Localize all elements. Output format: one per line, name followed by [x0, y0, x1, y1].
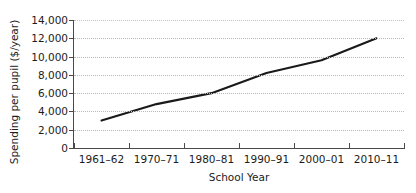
y-axis-tick-mark: [69, 75, 74, 76]
y-axis-tick-label: 4,000: [18, 106, 68, 117]
x-axis-tick-mark: [184, 143, 185, 149]
plot-area: [74, 20, 404, 148]
gridline: [74, 20, 404, 21]
y-axis-tick-label: 2,000: [18, 124, 68, 135]
gridline: [74, 93, 404, 94]
x-axis-tick-mark: [129, 143, 130, 149]
y-axis-tick-mark: [69, 57, 74, 58]
y-axis-tick-label: 8,000: [18, 69, 68, 80]
y-axis-tick-mark: [69, 93, 74, 94]
spending-per-pupil-line: [102, 38, 377, 120]
y-axis-tick-label: 12,000: [18, 33, 68, 44]
x-axis-title: School Year: [74, 171, 404, 184]
y-axis-tick-label: 14,000: [18, 15, 68, 26]
gridline: [74, 75, 404, 76]
y-axis-tick-label-group: 02,0004,0006,0008,00010,00012,00014,000: [18, 0, 68, 193]
gridline: [74, 38, 404, 39]
y-axis-tick-label: 6,000: [18, 88, 68, 99]
gridline: [74, 57, 404, 58]
y-axis-tick-mark: [69, 111, 74, 112]
gridline: [74, 130, 404, 131]
x-axis-tick-label: 2010–11: [342, 153, 412, 166]
x-axis-tick-mark: [349, 143, 350, 149]
x-axis-tick-mark: [74, 143, 75, 149]
x-axis-tick-mark: [239, 143, 240, 149]
x-axis-tick-mark: [294, 143, 295, 149]
y-axis-tick-label: 10,000: [18, 51, 68, 62]
y-axis-tick-mark: [69, 20, 74, 21]
y-axis-tick-mark: [69, 130, 74, 131]
y-axis-tick-label: 0: [18, 143, 68, 154]
y-axis-tick-mark: [69, 38, 74, 39]
x-axis-tick-mark: [404, 143, 405, 149]
gridline: [74, 111, 404, 112]
line-chart: Spending per pupil ($/year) 02,0004,0006…: [0, 0, 416, 193]
